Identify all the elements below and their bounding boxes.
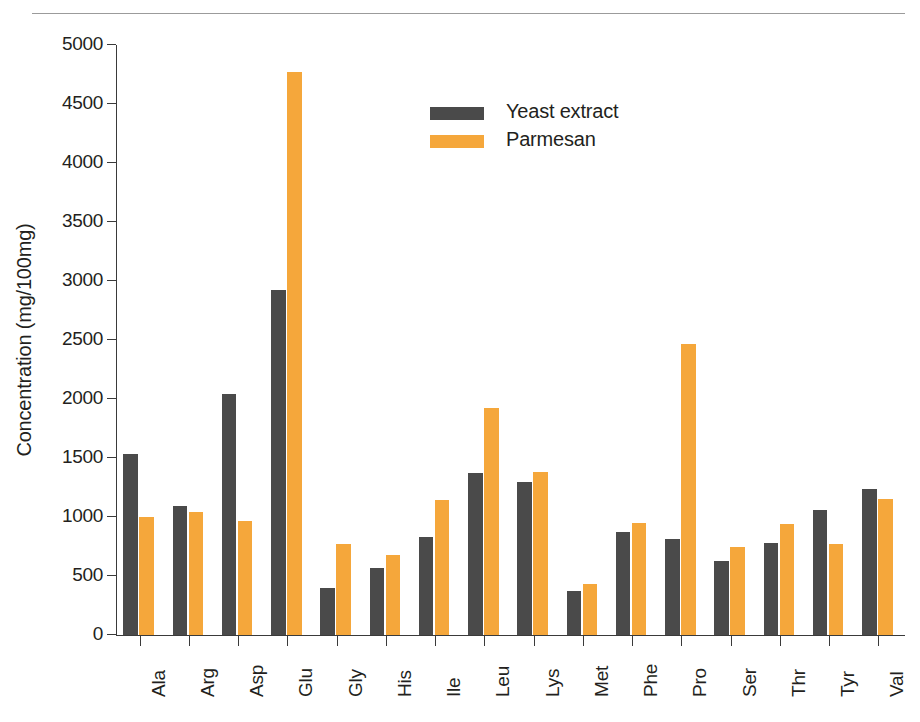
y-axis-tick-label: 3000: [62, 269, 103, 291]
x-axis-tick-mark: [780, 635, 781, 646]
x-axis-tick-label-tyr: Tyr: [837, 671, 859, 697]
header-rule: [32, 13, 905, 14]
x-axis-line: [116, 635, 905, 636]
x-axis-tick-mark: [386, 635, 387, 646]
x-axis-tick-mark: [681, 635, 682, 646]
y-axis-tick-mark: [107, 280, 116, 281]
x-axis-tick-mark: [435, 635, 436, 646]
x-axis-tick-mark: [583, 635, 584, 646]
x-axis-tick-label-arg: Arg: [197, 668, 219, 697]
x-axis-tick-mark: [189, 635, 190, 646]
x-axis-tick-label-pro: Pro: [689, 668, 711, 697]
x-axis-tick-label-ser: Ser: [739, 668, 761, 697]
x-axis-tick-label-glu: Glu: [295, 668, 317, 697]
x-axis-tick-label-thr: Thr: [788, 669, 810, 697]
y-axis-tick-mark: [107, 339, 116, 340]
y-axis-tick-label: 500: [72, 564, 103, 586]
y-axis-tick-mark: [107, 575, 116, 576]
y-axis-tick-label: 1500: [62, 446, 103, 468]
x-axis-tick-mark: [731, 635, 732, 646]
y-axis-tick-label: 1000: [62, 505, 103, 527]
bar-parmesan-val: [878, 499, 893, 635]
y-axis-tick-mark: [107, 634, 116, 635]
chart-figure: Concentration (mg/100mg) 050010001500200…: [0, 0, 920, 722]
y-axis-tick-mark: [107, 398, 116, 399]
x-axis-tick-mark: [337, 635, 338, 646]
y-axis-tick-label: 2500: [62, 328, 103, 350]
x-axis-tick-mark: [140, 635, 141, 646]
x-axis-tick-mark: [829, 635, 830, 646]
y-axis-tick-label: 4500: [62, 92, 103, 114]
x-axis-tick-label-ala: Ala: [148, 670, 170, 697]
y-axis-tick-label: 2000: [62, 387, 103, 409]
x-axis-tick-label-gly: Gly: [345, 669, 367, 697]
x-axis-tick-mark: [484, 635, 485, 646]
y-axis-tick-mark: [107, 44, 116, 45]
y-axis-tick-label: 5000: [62, 33, 103, 55]
x-axis-tick-label-val: Val: [886, 672, 908, 697]
x-axis-tick-mark: [238, 635, 239, 646]
legend-swatch-icon-parmesan: [430, 135, 484, 148]
x-axis-tick-label-his: His: [394, 670, 416, 697]
y-axis-tick-mark: [107, 162, 116, 163]
x-axis-tick-label-leu: Leu: [492, 666, 514, 697]
x-axis-tick-mark: [632, 635, 633, 646]
y-axis-tick-mark: [107, 457, 116, 458]
y-axis-tick-mark: [107, 516, 116, 517]
legend-label-yeast-extract: Yeast extract: [506, 100, 618, 123]
x-axis-tick-label-ile: Ile: [443, 678, 465, 697]
y-axis-tick-mark: [107, 103, 116, 104]
x-axis-tick-label-lys: Lys: [542, 669, 564, 697]
y-axis-tick-mark: [107, 221, 116, 222]
legend-label-parmesan: Parmesan: [506, 128, 596, 151]
x-axis-tick-label-met: Met: [591, 666, 613, 697]
y-axis-tick-label: 4000: [62, 151, 103, 173]
y-axis-title: Concentration (mg/100mg): [13, 223, 36, 456]
y-axis-tick-label: 0: [93, 623, 103, 645]
x-axis-tick-mark: [287, 635, 288, 646]
x-axis-tick-mark: [878, 635, 879, 646]
legend-swatch-icon-yeast-extract: [430, 107, 484, 120]
x-axis-tick-label-phe: Phe: [640, 664, 662, 697]
y-axis-tick-label: 3500: [62, 210, 103, 232]
x-axis-tick-mark: [534, 635, 535, 646]
x-axis-tick-label-asp: Asp: [246, 665, 268, 697]
bar-yeast-extract-val: [862, 489, 877, 635]
